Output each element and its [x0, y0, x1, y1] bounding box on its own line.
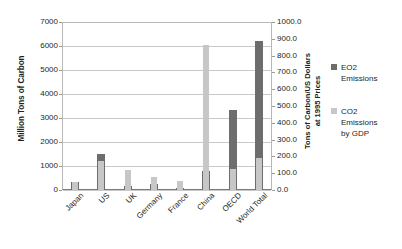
bar-group: [115, 22, 141, 190]
right-axis-tick-label: 100.0: [277, 169, 297, 177]
left-axis-tick-labels: 70006000500040003000200010000: [20, 18, 58, 190]
category-label: UK: [124, 191, 138, 205]
category-label-text: OECD: [220, 191, 243, 214]
bar-co2-emissions-by-gdp: [151, 177, 157, 190]
right-axis-tickmark: [272, 140, 275, 141]
right-axis-tick-label: 600.0: [277, 85, 297, 93]
chart-legend: EO2 EmissionsCO2 Emissions by GDP: [331, 62, 401, 161]
right-axis-tickmark: [272, 173, 275, 174]
legend-swatch-icon: [331, 64, 337, 70]
bar-group: [193, 22, 219, 190]
left-axis-tick-label: 2000: [40, 138, 58, 146]
bars-layer: [62, 22, 272, 190]
category-label: US: [98, 191, 112, 205]
right-axis-tickmark: [272, 106, 275, 107]
category-label: China: [196, 191, 217, 212]
right-axis-tick-label: 800.0: [277, 52, 297, 60]
right-axis-title-text: Tons of Carbon/US Dollarsat 1995 Prices: [303, 53, 323, 149]
right-axis-tick-label: 500.0: [277, 102, 297, 110]
legend-item: CO2 Emissions by GDP: [331, 106, 401, 139]
bar-co2-emissions-by-gdp: [125, 170, 131, 190]
right-axis-tickmarks: [272, 22, 276, 190]
bar-co2-emissions-by-gdp: [98, 161, 104, 190]
category-label-text: UK: [124, 191, 138, 205]
left-axis-tick-label: 1000: [40, 162, 58, 170]
bar-co2-emissions-by-gdp: [256, 158, 262, 190]
right-axis-tickmark: [272, 89, 275, 90]
left-axis-tick-label: 5000: [40, 66, 58, 74]
right-axis-title-line1: Tons of Carbon/US Dollars: [303, 53, 313, 149]
left-axis-tick-label: 7000: [40, 18, 58, 26]
right-axis-title-line2: at 1995 Prices: [313, 53, 323, 149]
right-axis-tick-label: 1000.0: [277, 18, 301, 26]
left-axis-tick-label: 3000: [40, 114, 58, 122]
bar-group: [246, 22, 272, 190]
category-label-text: China: [196, 191, 217, 212]
bar-co2-emissions-by-gdp: [72, 182, 78, 190]
category-label: OECD: [220, 191, 243, 214]
left-axis-tick-label: 4000: [40, 90, 58, 98]
category-label: Japan: [64, 191, 86, 213]
right-axis-tick-label: 400.0: [277, 119, 297, 127]
category-label-text: France: [167, 191, 191, 215]
legend-label: EO2 Emissions: [341, 62, 377, 84]
category-label-text: US: [98, 191, 112, 205]
legend-item: EO2 Emissions: [331, 62, 401, 84]
bar-co2-emissions-by-gdp: [203, 45, 209, 190]
right-axis-tickmark: [272, 156, 275, 157]
category-label: Germany: [135, 191, 165, 221]
legend-swatch-icon: [331, 108, 337, 114]
legend-label: CO2 Emissions by GDP: [341, 106, 377, 139]
right-axis-tickmark: [272, 56, 275, 57]
category-label: France: [167, 191, 191, 215]
right-axis-tick-label: 200.0: [277, 152, 297, 160]
right-axis-tickmark: [272, 123, 275, 124]
bar-group: [220, 22, 246, 190]
right-axis-title: Tons of Carbon/US Dollarsat 1995 Prices: [300, 26, 326, 176]
bar-group: [88, 22, 114, 190]
right-axis-tickmark: [272, 22, 275, 23]
bar-co2-emissions-by-gdp: [177, 181, 183, 190]
bar-group: [167, 22, 193, 190]
right-axis-tick-label: 700.0: [277, 68, 297, 76]
bar-chart: Million Tons of Carbon 70006000500040003…: [0, 0, 402, 249]
category-label-text: Germany: [135, 191, 165, 221]
right-axis-tickmark: [272, 39, 275, 40]
left-axis-tick-label: 6000: [40, 42, 58, 50]
right-axis-tickmark: [272, 72, 275, 73]
bar-group: [62, 22, 88, 190]
right-axis-tick-label: 300.0: [277, 136, 297, 144]
category-label-text: Japan: [64, 191, 86, 213]
category-axis-labels: JapanUSUKGermanyFranceChinaOECDWorld Tot…: [62, 191, 302, 249]
bar-group: [141, 22, 167, 190]
bar-co2-emissions-by-gdp: [230, 169, 236, 190]
right-axis-tick-label: 900.0: [277, 35, 297, 43]
